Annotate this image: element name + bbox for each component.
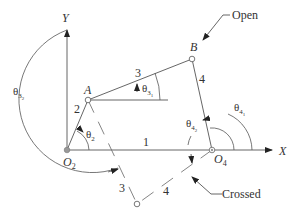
joint-B-crossed [134, 201, 140, 207]
theta3-1-label: θ31 [142, 82, 154, 98]
point-A-label: A [83, 83, 92, 97]
joint-B [189, 56, 195, 62]
link-4-open-label: 4 [199, 72, 205, 86]
crossed-callout-label: Crossed [222, 187, 261, 201]
pivot-O2 [64, 147, 70, 153]
link-3-crossed [88, 100, 137, 204]
link-3-crossed-label: 3 [119, 181, 125, 195]
link-3-open-label: 3 [135, 66, 141, 80]
theta4-2-arc-crossed [188, 136, 191, 145]
theta4-2-arc [210, 128, 234, 150]
theta2-label: θ2 [86, 128, 95, 143]
theta3-1-arc [155, 73, 160, 100]
theta4-1-label: θ41 [234, 101, 246, 117]
link-2-label: 2 [74, 102, 80, 116]
open-callout-label: Open [232, 8, 258, 22]
theta4-2-arrow [191, 154, 192, 163]
theta3-2-label: θ32 [13, 85, 25, 101]
theta4-open-arrow [203, 118, 210, 120]
pivot-O4-inner [211, 149, 213, 151]
y-axis-label: Y [62, 11, 70, 25]
open-callout-leader [203, 15, 230, 40]
fourbar-diagram: Y X A B O2 O4 1 2 3 4 3 4 θ2 θ31 θ32 θ41… [0, 0, 299, 219]
point-B-label: B [190, 40, 198, 54]
theta4-1-arc [228, 114, 252, 150]
theta4-2-label: θ42 [186, 117, 198, 133]
link-4-crossed-label: 4 [163, 184, 169, 198]
point-O4-label: O4 [214, 152, 227, 168]
x-axis-label: X [278, 144, 287, 158]
theta2-arrow [80, 129, 83, 132]
joint-A [85, 97, 91, 103]
point-O2-label: O2 [63, 155, 76, 171]
link-1-label: 1 [143, 135, 149, 149]
crossed-callout-leader [192, 177, 222, 194]
link-4-crossed [137, 150, 212, 204]
